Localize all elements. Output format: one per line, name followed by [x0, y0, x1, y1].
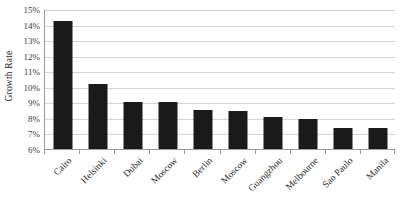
x-axis-category-label-text: Moscow — [219, 155, 249, 185]
y-axis-tick-label: 8% — [16, 114, 40, 123]
y-axis-tick-label: 11% — [16, 68, 40, 77]
bar-slot — [45, 10, 80, 149]
y-axis-tick-label: 7% — [16, 130, 40, 139]
y-axis-tick-labels: 15%14%13%12%11%10%9%8%7%6% — [16, 4, 42, 150]
x-axis-category-label-text: Moscow — [149, 155, 179, 185]
y-axis-title-label: Growth Rate — [3, 50, 13, 101]
y-axis-title: Growth Rate — [0, 0, 16, 152]
bar — [158, 102, 177, 149]
bar-slot — [150, 10, 185, 149]
y-axis-tick-label: 13% — [16, 37, 40, 46]
bar — [53, 21, 72, 149]
bar-slot — [80, 10, 115, 149]
x-axis-category-labels: CairoHelsinkiDubaiMoscowBerlinMoscowGuan… — [44, 154, 395, 214]
y-axis-tick-label: 12% — [16, 52, 40, 61]
bar — [369, 128, 388, 149]
x-axis-category-label-text: Cairo — [52, 155, 74, 177]
x-axis-category-label-text: Berlin — [191, 155, 215, 179]
bars-layer — [45, 10, 395, 149]
y-axis-tick-label: 9% — [16, 99, 40, 108]
y-axis-tick-label: 10% — [16, 83, 40, 92]
x-axis-category-label-text: Melbourne — [283, 155, 320, 192]
bar-slot — [361, 10, 396, 149]
growth-rate-bar-chart: Growth Rate 15%14%13%12%11%10%9%8%7%6% C… — [0, 0, 407, 219]
bar — [334, 128, 353, 149]
y-axis-tick-label: 6% — [16, 146, 40, 155]
x-axis-category-label-text: Helsinki — [79, 155, 109, 185]
x-axis-category-label-text: Manila — [364, 155, 390, 181]
bar-slot — [221, 10, 256, 149]
bar — [229, 111, 248, 149]
bar — [193, 110, 212, 149]
plot-area — [44, 10, 395, 150]
y-axis-tick-label: 14% — [16, 21, 40, 30]
bar — [88, 84, 107, 149]
bar-slot — [185, 10, 220, 149]
x-axis-category-label-text: Guangzhou — [247, 155, 285, 193]
bar-slot — [291, 10, 326, 149]
bar — [264, 117, 283, 149]
bar-slot — [256, 10, 291, 149]
bar-slot — [326, 10, 361, 149]
bar — [299, 119, 318, 149]
y-axis-tick-label: 15% — [16, 6, 40, 15]
bar — [123, 102, 142, 149]
x-axis-category-label-text: Sao Paulo — [321, 155, 355, 189]
x-axis-category-label-text: Dubai — [121, 155, 144, 178]
bar-slot — [115, 10, 150, 149]
